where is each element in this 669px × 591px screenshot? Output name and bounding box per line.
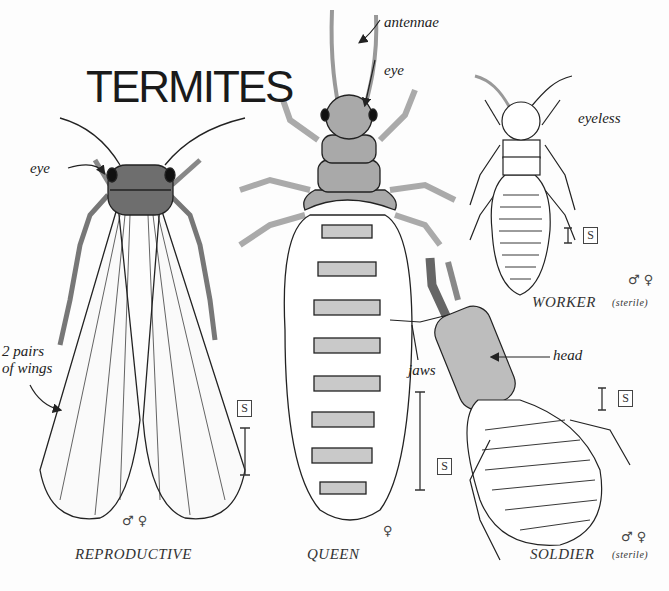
sex-symbol-soldier: ♂ ♀	[621, 529, 646, 544]
sex-symbol-worker: ♂ ♀	[628, 272, 653, 287]
label-reproductive-eye: eye	[30, 160, 50, 177]
label-eyeless: eyeless	[578, 110, 620, 127]
caption-soldier-note: (sterile)	[612, 549, 648, 560]
page-title: TERMITES	[86, 62, 292, 112]
scale-marker-worker: S	[583, 227, 598, 244]
termites-illustration: TERMITES eye 2 pairs of wings antennae e…	[0, 0, 669, 591]
label-jaws: jaws	[408, 362, 436, 379]
label-head: head	[553, 347, 582, 364]
label-queen-eye: eye	[384, 62, 404, 79]
sex-symbol-queen: ♀	[383, 523, 393, 538]
label-wings-line2: of wings	[2, 360, 52, 377]
label-antennae: antennae	[384, 14, 439, 31]
worker-termite	[470, 76, 575, 295]
caption-worker: WORKER	[532, 294, 596, 311]
caption-queen: QUEEN	[307, 546, 360, 563]
caption-soldier: SOLDIER	[530, 546, 594, 563]
label-wings-line1: 2 pairs	[2, 343, 44, 360]
sex-symbol-reproductive: ♂ ♀	[122, 513, 147, 528]
scale-marker-soldier: S	[618, 390, 633, 407]
scale-marker-queen: S	[437, 458, 452, 475]
scale-marker-reproductive: S	[237, 400, 252, 417]
reproductive-termite	[40, 118, 245, 519]
caption-worker-note: (sterile)	[612, 297, 648, 308]
caption-reproductive: REPRODUCTIVE	[75, 546, 192, 563]
